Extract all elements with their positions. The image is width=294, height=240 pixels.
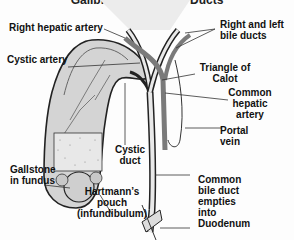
label-cbd-2: bile duct [198, 185, 239, 196]
label-hartmann-1: Hartmann’s [72, 186, 152, 197]
label-right-hepatic-artery: Right hepatic artery [9, 22, 103, 33]
label-right-left-bile-ducts-2: bile ducts [220, 30, 267, 41]
label-cbd-3: empties [198, 196, 236, 207]
label-cystic-duct-2: duct [110, 155, 150, 166]
label-cbd-4: into [198, 207, 216, 218]
label-cbd-1: Common [198, 174, 241, 185]
label-common-hepatic-artery-2: hepatic [225, 98, 275, 109]
label-common-hepatic-artery-3: artery [225, 109, 275, 120]
diagram-root: Gallbladder and Bile Ducts [0, 0, 294, 240]
label-portal-vein-2: vein [220, 136, 240, 147]
label-triangle-of-calot-1: Triangle of [195, 62, 255, 73]
label-cystic-duct-1: Cystic [110, 144, 150, 155]
label-cystic-artery: Cystic artery [7, 54, 68, 65]
label-right-left-bile-ducts-1: Right and left [220, 19, 284, 30]
label-triangle-of-calot-2: Calot [195, 73, 255, 84]
label-cbd-5: Duodenum [198, 218, 250, 229]
label-portal-vein-1: Portal [220, 125, 248, 136]
label-common-hepatic-artery-1: Common [225, 87, 275, 98]
label-gallstone-1: Gallstone [10, 164, 56, 175]
label-hartmann-2: pouch [72, 197, 152, 208]
label-hartmann-3: (infundibulum) [72, 208, 152, 219]
label-gallstone-2: in fundus [10, 175, 55, 186]
portal-vein [168, 60, 182, 147]
